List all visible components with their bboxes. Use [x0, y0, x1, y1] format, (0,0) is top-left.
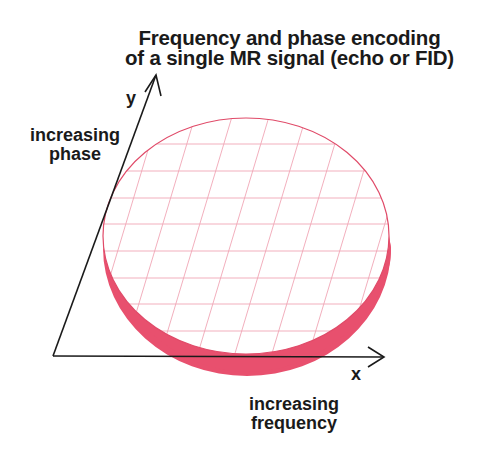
x-axis-label: increasing frequency: [244, 395, 344, 433]
disc-top-face: [103, 118, 389, 354]
y-axis-letter: y: [126, 88, 136, 109]
x-axis-label-line-2: frequency: [244, 414, 344, 433]
x-axis-letter: x: [351, 364, 361, 385]
y-axis-label: increasing phase: [28, 126, 122, 164]
y-axis-label-line-1: increasing: [28, 126, 122, 145]
x-axis-label-line-1: increasing: [244, 395, 344, 414]
x-axis-line: [53, 356, 383, 357]
y-axis-label-line-2: phase: [28, 145, 122, 164]
encoding-diagram: [0, 0, 479, 451]
